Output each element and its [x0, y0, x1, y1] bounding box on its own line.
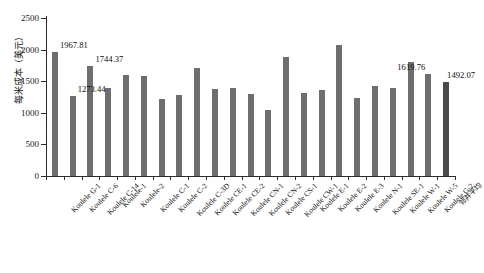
x-tick-mark: [295, 176, 296, 180]
x-tick-label: 邻井平均: [458, 182, 483, 207]
bar: [354, 98, 360, 176]
x-tick-mark: [135, 176, 136, 180]
x-tick-mark: [384, 176, 385, 180]
bar-series: [46, 18, 456, 176]
bar: [372, 86, 378, 176]
y-tick-label: 2500: [0, 14, 39, 23]
x-tick-mark: [259, 176, 260, 180]
bar-value-label: 1744.37: [95, 55, 123, 64]
bar-value-label: 1273.44: [78, 85, 106, 94]
bar: [390, 88, 396, 176]
y-tick-label: 1500: [0, 77, 39, 86]
bar-value-label: 1619.76: [397, 63, 425, 72]
bar: [283, 57, 289, 176]
bar: [336, 45, 342, 176]
x-tick-mark: [117, 176, 118, 180]
bar: [212, 89, 218, 176]
bar: [52, 52, 58, 176]
x-tick-mark: [331, 176, 332, 180]
bar: [425, 74, 431, 176]
bar-value-label: 1967.81: [60, 41, 88, 50]
x-tick-mark: [437, 176, 438, 180]
bar: [141, 76, 147, 176]
y-axis-title: 每米成本（美元）: [14, 13, 25, 123]
bar: [123, 75, 129, 176]
y-tick-label: 1000: [0, 109, 39, 118]
x-tick-mark: [153, 176, 154, 180]
bar: [194, 68, 200, 176]
bar: [408, 62, 414, 176]
x-tick-mark: [224, 176, 225, 180]
figure-top-strip: [6, 0, 206, 8]
x-tick-mark: [206, 176, 207, 180]
bar: [443, 82, 449, 176]
x-tick-mark: [402, 176, 403, 180]
x-tick-mark: [46, 176, 47, 180]
bar: [230, 88, 236, 176]
x-axis-line: [46, 176, 456, 177]
x-tick-mark: [366, 176, 367, 180]
x-tick-mark: [313, 176, 314, 180]
y-tick-label: 2000: [0, 46, 39, 55]
x-tick-mark: [82, 176, 83, 180]
bar: [87, 66, 93, 176]
x-tick-mark: [64, 176, 65, 180]
x-tick-mark: [242, 176, 243, 180]
y-tick-label: 0: [0, 172, 39, 181]
bar: [105, 88, 111, 176]
bar: [265, 110, 271, 176]
bar: [248, 94, 254, 176]
bar-value-label: 1492.07: [447, 71, 475, 80]
bar: [319, 90, 325, 176]
bar: [70, 96, 76, 176]
x-tick-mark: [99, 176, 100, 180]
x-tick-mark: [170, 176, 171, 180]
y-tick-label: 500: [0, 140, 39, 149]
x-tick-mark: [419, 176, 420, 180]
bar: [159, 99, 165, 176]
x-tick-mark: [188, 176, 189, 180]
x-tick-mark: [455, 176, 456, 180]
x-tick-mark: [348, 176, 349, 180]
bar: [176, 95, 182, 176]
bar: [301, 93, 307, 176]
x-tick-mark: [277, 176, 278, 180]
